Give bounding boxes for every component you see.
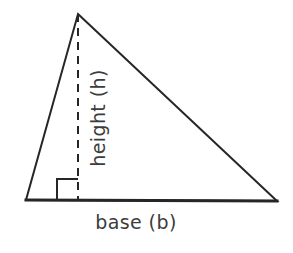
height-label: height (h) [87, 69, 109, 166]
diagram-canvas: base (b) height (h) [0, 0, 293, 253]
triangle-base-line [26, 200, 277, 201]
triangle-diagram: base (b) height (h) [0, 0, 293, 253]
base-label: base (b) [95, 211, 176, 233]
